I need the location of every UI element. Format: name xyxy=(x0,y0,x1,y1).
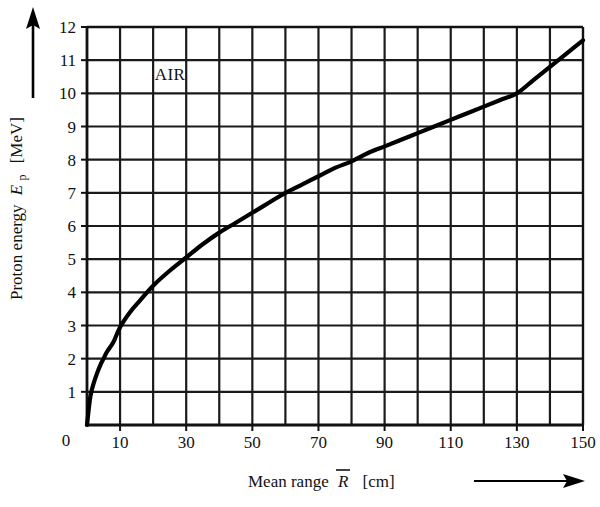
tick-label-x: 90 xyxy=(376,433,393,452)
tick-label-x: 110 xyxy=(438,433,463,452)
proton-range-energy-chart: 1030507090110130150 123456789101112 0 AI… xyxy=(0,0,600,507)
origin-label: 0 xyxy=(62,431,71,450)
tick-label-y: 5 xyxy=(68,250,77,269)
svg-text:Mean range R [: Mean range R [cm] xyxy=(248,472,395,491)
tick-label-y: 4 xyxy=(68,283,77,302)
chart-figure: 1030507090110130150 123456789101112 0 AI… xyxy=(0,0,600,507)
material-annotation-air: AIR xyxy=(155,65,186,84)
tick-label-y: 3 xyxy=(68,317,77,336)
y-axis-symbol: E xyxy=(7,184,26,196)
tick-label-y: 9 xyxy=(68,118,77,137)
x-axis-caption-prefix: Mean range xyxy=(248,472,329,491)
tick-label-y: 1 xyxy=(68,383,77,402)
tick-label-y: 7 xyxy=(68,184,77,203)
x-axis-units: [cm] xyxy=(363,472,395,491)
y-axis-caption-prefix: Proton energy xyxy=(7,204,26,300)
tick-label-y: 12 xyxy=(59,18,76,37)
tick-label-y: 8 xyxy=(68,151,77,170)
tick-label-y: 10 xyxy=(59,84,76,103)
tick-label-x: 30 xyxy=(178,433,195,452)
tick-label-x: 70 xyxy=(310,433,327,452)
tick-label-y: 11 xyxy=(60,51,76,70)
y-axis-symbol-subscript: p xyxy=(15,175,29,181)
tick-label-x: 130 xyxy=(504,433,530,452)
tick-label-x: 50 xyxy=(244,433,261,452)
y-axis-units: [MeV] xyxy=(7,117,26,163)
tick-label-y: 6 xyxy=(68,217,77,236)
tick-label-x: 10 xyxy=(112,433,129,452)
tick-label-x: 150 xyxy=(570,433,596,452)
x-axis-symbol: R xyxy=(337,472,349,491)
tick-label-y: 2 xyxy=(68,350,77,369)
chart-background xyxy=(0,0,600,507)
